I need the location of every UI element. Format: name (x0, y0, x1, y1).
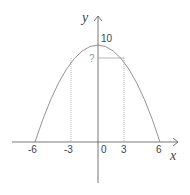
y-axis-label: y (80, 10, 89, 25)
x-tick-neg6: -6 (28, 144, 37, 155)
parabola-diagram: y x 10 ? -6 -3 0 3 6 (0, 0, 190, 195)
unknown-value-label: ? (89, 53, 95, 64)
x-axis-label: x (169, 148, 177, 163)
parabola-curve (35, 45, 160, 142)
x-tick-0: 0 (101, 144, 107, 155)
x-tick-3: 3 (121, 144, 127, 155)
x-tick-neg3: -3 (64, 144, 73, 155)
y-tick-10: 10 (101, 33, 113, 44)
x-tick-6: 6 (156, 144, 162, 155)
